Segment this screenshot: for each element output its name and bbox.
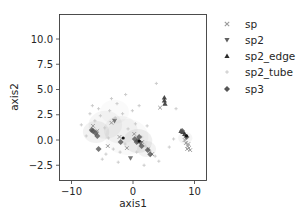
legend-label-sp: sp	[245, 18, 257, 30]
x-tick-label: −10	[61, 186, 82, 197]
scatter-chart: −2.50.02.55.07.510.0 axis2 −10010 axis1 …	[0, 0, 306, 224]
legend-label-sp3: sp3	[245, 83, 264, 95]
x-tick-label: 0	[130, 186, 136, 197]
legend-label-sp2-tube: sp2_tube	[245, 66, 293, 79]
legend-label-sp2-edge: sp2_edge	[245, 50, 295, 63]
y-tick-label: −2.5	[29, 160, 53, 171]
x-tick-label: 10	[188, 186, 201, 197]
plot-area	[60, 15, 207, 181]
y-tick-label: 7.5	[37, 59, 53, 70]
y-tick-label: 10.0	[31, 34, 53, 45]
data-point	[185, 134, 188, 137]
y-tick-label: 0.0	[37, 135, 53, 146]
x-axis-label: axis1	[119, 197, 147, 209]
legend-label-sp2: sp2	[245, 34, 264, 46]
y-axis-label: axis2	[8, 83, 20, 111]
y-tick-label: 2.5	[37, 109, 53, 120]
data-point	[122, 136, 125, 139]
y-tick-label: 5.0	[37, 84, 53, 95]
data-point	[138, 139, 141, 142]
